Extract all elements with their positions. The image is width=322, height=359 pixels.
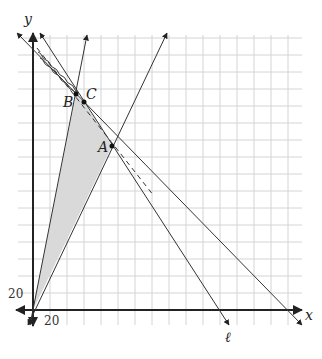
y-tick-label: 20	[8, 287, 23, 301]
y-axis-label: y	[23, 11, 33, 27]
point-A	[110, 144, 115, 149]
point-label-C: C	[86, 86, 97, 102]
point-label-A: A	[96, 139, 108, 155]
coordinate-plane: y x 20 20 B C A ℓ	[0, 0, 322, 359]
point-label-B: B	[62, 94, 73, 110]
point-B	[74, 92, 79, 97]
line-origin-A	[28, 33, 167, 325]
x-axis-label: x	[305, 307, 313, 323]
x-tick-label: 20	[44, 314, 59, 328]
line-label-l: ℓ	[225, 329, 231, 345]
